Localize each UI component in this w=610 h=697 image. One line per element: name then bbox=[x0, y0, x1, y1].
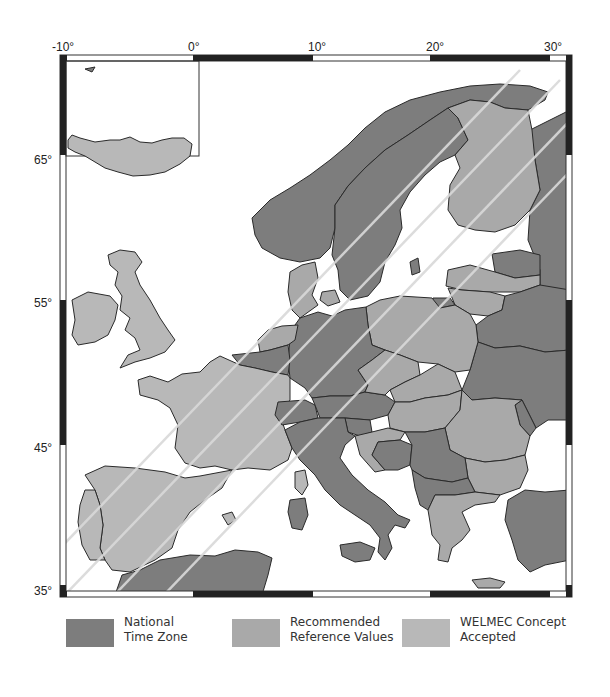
region-turkey bbox=[505, 490, 570, 572]
lon-tick: 30° bbox=[544, 40, 562, 54]
legend-swatch-welmec bbox=[402, 619, 450, 647]
legend-swatch-recommended bbox=[232, 619, 280, 647]
lat-tick: 65° bbox=[34, 153, 52, 167]
lon-tick: -10° bbox=[52, 40, 74, 54]
region-gotland bbox=[410, 258, 420, 275]
legend-label-line: Accepted bbox=[460, 630, 610, 645]
region-ireland bbox=[72, 292, 118, 345]
region-denmark bbox=[288, 262, 318, 318]
longitude-axis: -10° 0° 10° 20° 30° bbox=[52, 40, 562, 54]
europe-map-figure: -10° 0° 10° 20° 30° 65° 55° 45° 35° bbox=[0, 0, 610, 697]
region-bulgaria bbox=[465, 455, 528, 495]
lat-tick: 55° bbox=[34, 296, 52, 310]
lon-tick: 20° bbox=[426, 40, 444, 54]
lon-tick: 0° bbox=[188, 40, 200, 54]
region-sicily bbox=[340, 542, 375, 562]
region-great-britain bbox=[108, 250, 175, 368]
legend-swatch-national bbox=[66, 619, 114, 647]
lat-tick: 35° bbox=[34, 584, 52, 598]
legend-label-line: WELMEC Concept bbox=[460, 615, 610, 630]
map-legend: National Time Zone Recommended Reference… bbox=[66, 615, 586, 655]
legend-label: WELMEC Concept Accepted bbox=[460, 615, 610, 645]
iceland-inset bbox=[66, 61, 199, 176]
region-denmark-islands bbox=[320, 290, 340, 306]
region-iceland bbox=[68, 135, 192, 176]
region-france bbox=[138, 356, 292, 470]
region-crete bbox=[472, 578, 505, 588]
latitude-axis: 65° 55° 45° 35° bbox=[34, 153, 52, 598]
region-corsica bbox=[295, 470, 308, 495]
lat-tick: 45° bbox=[34, 441, 52, 455]
lon-tick: 10° bbox=[308, 40, 326, 54]
region-sardinia bbox=[288, 498, 308, 530]
region-greece bbox=[428, 492, 500, 562]
